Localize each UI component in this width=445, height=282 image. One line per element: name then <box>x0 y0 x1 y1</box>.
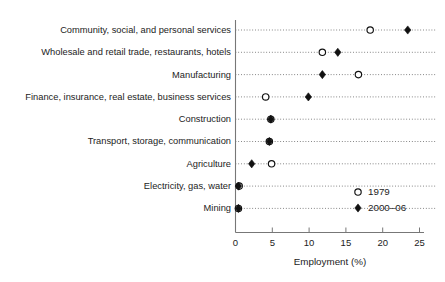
category-label: Agriculture <box>187 159 231 169</box>
x-axis-title: Employment (%) <box>294 256 366 267</box>
x-tick-label: 0 <box>233 237 238 248</box>
category-label: Construction <box>179 114 231 124</box>
data-point-filled <box>248 160 254 168</box>
data-point-open <box>367 27 373 33</box>
data-point-open <box>319 49 325 55</box>
data-point-filled <box>405 26 411 34</box>
category-label: Manufacturing <box>172 70 231 80</box>
x-axis-ticks-group: 0510152025 <box>233 228 425 249</box>
dot-plot-chart: 0510152025 Community, social, and person… <box>0 0 445 282</box>
data-point-open <box>262 94 268 100</box>
legend-marker-open <box>355 189 361 195</box>
legend-label: 1979 <box>368 186 390 197</box>
category-label: Electricity, gas, water <box>144 181 231 191</box>
data-point-open <box>268 161 274 167</box>
category-label: Mining <box>204 203 231 213</box>
category-label: Finance, insurance, real estate, busines… <box>25 92 231 102</box>
category-label: Wholesale and retail trade, restaurants,… <box>41 47 231 57</box>
category-label: Community, social, and personal services <box>60 25 231 35</box>
legend-marker-filled <box>355 204 361 212</box>
chart-legend: 19792000–06 <box>355 186 407 213</box>
data-point-filled <box>335 48 341 56</box>
x-tick-label: 15 <box>341 237 352 248</box>
chart-canvas: 0510152025 Community, social, and person… <box>0 0 445 282</box>
x-tick-label: 20 <box>377 237 388 248</box>
x-tick-label: 25 <box>414 237 425 248</box>
data-point-filled <box>319 71 325 79</box>
category-labels-group: Community, social, and personal services… <box>25 25 231 213</box>
x-tick-label: 5 <box>270 237 275 248</box>
data-point-filled <box>305 93 311 101</box>
category-label: Transport, storage, communication <box>88 136 231 146</box>
data-point-open <box>355 71 361 77</box>
x-tick-label: 10 <box>304 237 315 248</box>
legend-label: 2000–06 <box>368 202 407 213</box>
gridlines-group <box>236 30 438 208</box>
